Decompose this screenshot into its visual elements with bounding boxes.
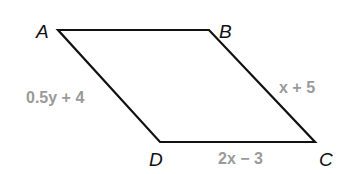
vertex-label-b: B — [219, 21, 232, 42]
vertex-label-a: A — [35, 21, 49, 42]
side-label-ad: 0.5y + 4 — [26, 89, 84, 106]
parallelogram-diagram: A B C D 0.5y + 4 x + 5 2x − 3 — [0, 0, 353, 174]
vertex-label-c: C — [319, 149, 333, 170]
side-label-dc: 2x − 3 — [218, 150, 263, 167]
parallelogram-shape — [58, 30, 315, 142]
vertex-label-d: D — [149, 149, 163, 170]
side-label-bc: x + 5 — [279, 79, 315, 96]
